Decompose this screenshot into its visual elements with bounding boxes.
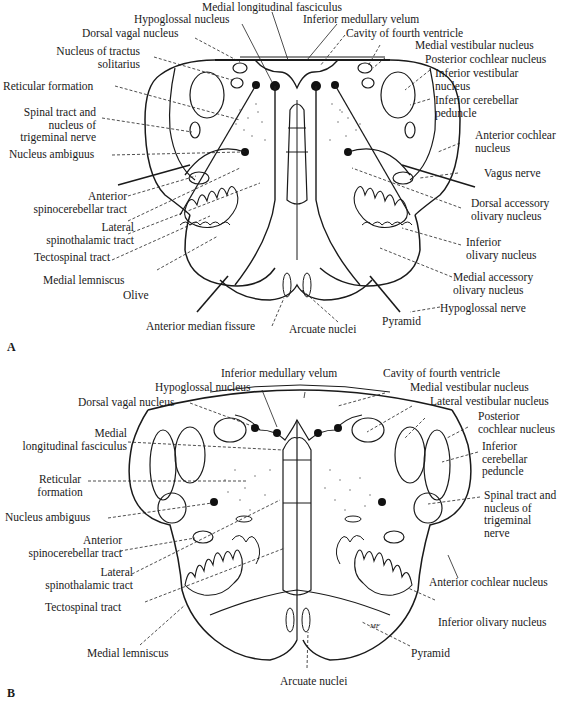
label-line: Dorsal accessory bbox=[471, 197, 549, 209]
label-a-pyramid: Pyramid bbox=[382, 315, 421, 328]
label-line: longitudinal fasciculus bbox=[23, 440, 127, 452]
label-line: nucleus bbox=[475, 142, 510, 154]
label-b-nucleus-ambiguus: Nucleus ambiguus bbox=[5, 511, 90, 524]
label-line: Posterior bbox=[478, 410, 520, 422]
label-line: Anterior bbox=[88, 190, 127, 202]
label-a-inferior-vestibular-nucleus: Inferior vestibularnucleus bbox=[435, 67, 518, 92]
label-a-anterior-median-fissure: Anterior median fissure bbox=[146, 320, 255, 333]
label-line: trigeminal nerve bbox=[20, 131, 96, 143]
label-line: Spinal tract and bbox=[484, 489, 556, 501]
label-line: Inferior bbox=[482, 440, 517, 452]
label-line: spinothalamic tract bbox=[46, 234, 134, 246]
label-line: peduncle bbox=[435, 107, 477, 119]
label-a-vagus-nerve: Vagus nerve bbox=[484, 167, 541, 180]
label-a-arcuate-nuclei: Arcuate nuclei bbox=[289, 323, 356, 336]
label-b-medial-longitudinal-fasciculus: Mediallongitudinal fasciculus bbox=[0, 427, 127, 452]
label-a-inferior-olivary-nucleus: Inferiorolivary nucleus bbox=[466, 236, 537, 261]
label-b-inferior-olivary-nucleus: Inferior olivary nucleus bbox=[438, 616, 547, 629]
label-line: Lateral bbox=[101, 221, 134, 233]
label-b-cavity-fourth-ventricle: Cavity of fourth ventricle bbox=[383, 367, 500, 380]
label-b-dorsal-vagal-nucleus: Dorsal vagal nucleus bbox=[78, 396, 174, 409]
label-line: Anterior bbox=[83, 534, 122, 546]
label-a-anterior-cochlear-nucleus: Anterior cochlearnucleus bbox=[475, 129, 556, 154]
label-b-anterior-spinocerebellar-tract: Anteriorspinocerebellar tract bbox=[0, 534, 122, 559]
label-b-inferior-medullary-velum: Inferior medullary velum bbox=[221, 367, 337, 380]
panel-a-section bbox=[102, 12, 475, 326]
label-b-inferior-cerebellar-peduncle: Inferiorcerebellarpeduncle bbox=[482, 440, 527, 478]
label-line: olivary nucleus bbox=[453, 284, 524, 296]
label-line: spinocerebellar tract bbox=[33, 203, 127, 215]
label-line: trigeminal bbox=[484, 514, 531, 526]
label-line: Anterior cochlear bbox=[475, 129, 556, 141]
label-line: solitarius bbox=[98, 58, 140, 70]
label-b-tectospinal-tract: Tectospinal tract bbox=[45, 601, 121, 614]
label-a-reticular-formation: Reticular formation bbox=[3, 80, 93, 93]
label-b-pyramid: Pyramid bbox=[411, 647, 450, 660]
label-a-dorsal-accessory-olivary-nucleus: Dorsal accessoryolivary nucleus bbox=[471, 197, 549, 222]
label-line: nucleus bbox=[435, 80, 470, 92]
label-a-hypoglossal-nerve: Hypoglossal nerve bbox=[440, 302, 526, 315]
label-b-anterior-cochlear-nucleus: Anterior cochlear nucleus bbox=[429, 576, 548, 589]
label-a-inferior-medullary-velum: Inferior medullary velum bbox=[303, 13, 419, 26]
panel-letter-a: A bbox=[7, 340, 16, 355]
label-a-nucleus-ambiguus: Nucleus ambiguus bbox=[9, 148, 94, 161]
label-a-medial-lemniscus: Medial lemniscus bbox=[43, 274, 124, 287]
label-a-cavity-fourth-ventricle: Cavity of fourth ventricle bbox=[346, 27, 463, 40]
label-line: spinocerebellar tract bbox=[28, 547, 122, 559]
label-line: nucleus of bbox=[484, 502, 532, 514]
label-line: Inferior cerebellar bbox=[435, 94, 518, 106]
label-a-olive: Olive bbox=[123, 289, 149, 302]
label-a-medial-longitudinal-fasciculus: Medial longitudinal fasciculus bbox=[202, 1, 342, 14]
label-line: nerve bbox=[484, 527, 510, 539]
label-a-spinal-tract-trigeminal: Spinal tract andnucleus oftrigeminal ner… bbox=[0, 106, 96, 144]
label-a-posterior-cochlear-nucleus: Posterior cochlear nucleus bbox=[425, 53, 546, 66]
label-b-lateral-spinothalamic-tract: Lateralspinothalamic tract bbox=[0, 566, 133, 591]
label-line: formation bbox=[37, 486, 82, 498]
label-b-lateral-vestibular-nucleus: Lateral vestibular nucleus bbox=[430, 395, 549, 408]
label-a-tectospinal-tract: Tectospinal tract bbox=[34, 251, 110, 264]
label-a-hypoglossal-nucleus: Hypoglossal nucleus bbox=[134, 13, 230, 26]
label-line: peduncle bbox=[482, 465, 524, 477]
label-line: Inferior vestibular bbox=[435, 67, 518, 79]
label-line: Lateral bbox=[100, 566, 133, 578]
panel-b-section: MF bbox=[88, 385, 480, 668]
label-line: spinothalamic tract bbox=[45, 579, 133, 591]
label-b-posterior-cochlear-nucleus: Posteriorcochlear nucleus bbox=[478, 410, 555, 435]
label-a-nucleus-tractus-solitarius: Nucleus of tractussolitarius bbox=[20, 45, 140, 70]
label-line: cerebellar bbox=[482, 453, 527, 465]
label-b-spinal-tract-trigeminal: Spinal tract andnucleus oftrigeminalnerv… bbox=[484, 489, 556, 539]
label-a-medial-vestibular-nucleus: Medial vestibular nucleus bbox=[415, 39, 534, 52]
label-line: Nucleus of tractus bbox=[56, 45, 140, 57]
label-line: cochlear nucleus bbox=[478, 423, 555, 435]
label-b-medial-vestibular-nucleus: Medial vestibular nucleus bbox=[410, 381, 529, 394]
label-b-reticular-formation: Reticularformation bbox=[30, 473, 90, 498]
label-line: Reticular bbox=[39, 473, 81, 485]
label-a-medial-accessory-olivary-nucleus: Medial accessoryolivary nucleus bbox=[453, 271, 533, 296]
label-line: Spinal tract and bbox=[24, 106, 96, 118]
panel-letter-b: B bbox=[7, 686, 15, 701]
label-line: olivary nucleus bbox=[466, 249, 537, 261]
label-line: olivary nucleus bbox=[471, 210, 542, 222]
label-a-lateral-spinothalamic-tract: Lateralspinothalamic tract bbox=[0, 221, 134, 246]
label-line: Medial bbox=[94, 427, 127, 439]
label-a-inferior-cerebellar-peduncle: Inferior cerebellarpeduncle bbox=[435, 94, 518, 119]
label-b-hypoglossal-nucleus: Hypoglossal nucleus bbox=[155, 381, 251, 394]
label-line: Inferior bbox=[466, 236, 501, 248]
label-line: Medial accessory bbox=[453, 271, 533, 283]
label-a-anterior-spinocerebellar-tract: Anteriorspinocerebellar tract bbox=[0, 190, 127, 215]
label-b-arcuate-nuclei: Arcuate nuclei bbox=[280, 675, 347, 688]
label-b-medial-lemniscus: Medial lemniscus bbox=[87, 647, 168, 660]
label-line: nucleus of bbox=[48, 119, 96, 131]
artist-mark: MF bbox=[369, 622, 381, 630]
label-a-dorsal-vagal-nucleus: Dorsal vagal nucleus bbox=[82, 27, 178, 40]
